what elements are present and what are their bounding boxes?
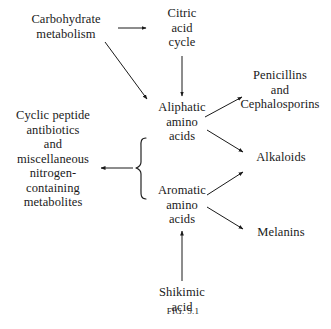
node-line: antibiotics xyxy=(4,123,102,138)
node-line: Cyclic peptide xyxy=(4,108,102,123)
node-line: metabolism xyxy=(14,27,118,42)
node-line: amino xyxy=(148,198,216,213)
figure-caption-text: FIG. 5.1 xyxy=(167,306,200,316)
node-line: nitrogen- xyxy=(4,166,102,181)
node-citric-acid-cycle: Citric acid cycle xyxy=(150,6,214,50)
node-line: cycle xyxy=(150,35,214,50)
node-line: containing xyxy=(4,181,102,196)
node-line: acids xyxy=(148,129,216,144)
node-line: acids xyxy=(148,212,216,227)
node-cyclic-peptide-antibiotics: Cyclic peptide antibiotics and miscellan… xyxy=(4,108,102,210)
node-line: Citric xyxy=(150,6,214,21)
node-line: amino xyxy=(148,115,216,130)
node-line: Penicillins xyxy=(231,68,329,83)
figure-caption: FIG. 5.1 xyxy=(135,306,231,316)
node-line: Alkaloids xyxy=(243,150,319,165)
node-line: Melanins xyxy=(243,225,319,240)
node-line: Carbohydrate xyxy=(14,12,118,27)
node-aromatic-amino-acids: Aromatic amino acids xyxy=(148,183,216,227)
biosynthesis-pathway-figure: Carbohydrate metabolism Citric acid cycl… xyxy=(0,0,331,329)
node-line: and xyxy=(231,83,329,98)
node-aliphatic-amino-acids: Aliphatic amino acids xyxy=(148,100,216,144)
node-melanins: Melanins xyxy=(243,225,319,240)
node-line: miscellaneous xyxy=(4,152,102,167)
node-line: acid xyxy=(150,21,214,36)
node-line: Shikimic xyxy=(148,285,216,300)
node-carbohydrate-metabolism: Carbohydrate metabolism xyxy=(14,12,118,41)
node-penicillins-and-cephalosporins: Penicillins and Cephalosporins xyxy=(231,68,329,112)
node-line: Aliphatic xyxy=(148,100,216,115)
node-line: Aromatic xyxy=(148,183,216,198)
node-line: and xyxy=(4,137,102,152)
edge-carbohydrate-to-aliphatic xyxy=(105,42,147,99)
node-line: metabolites xyxy=(4,195,102,210)
node-line: Cephalosporins xyxy=(231,97,329,112)
node-alkaloids: Alkaloids xyxy=(243,150,319,165)
amino-acid-brace xyxy=(136,138,146,199)
